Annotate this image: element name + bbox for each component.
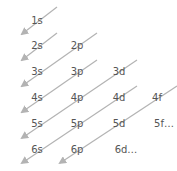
orbital-label: 3s — [31, 66, 43, 78]
orbital-label: 4f — [152, 92, 162, 104]
aufbau-diagram: 1s2s2p3s3p3d4s4p4d4f5s5p5d5f…6s6p6d… — [0, 0, 177, 171]
filling-order-arrows — [0, 0, 177, 171]
orbital-label: 6d… — [115, 144, 138, 156]
orbital-label: 6s — [31, 144, 43, 156]
orbital-label: 1s — [31, 15, 43, 27]
orbital-label: 5d — [113, 118, 126, 130]
orbital-label: 4s — [31, 92, 43, 104]
orbital-label: 2s — [31, 40, 43, 52]
orbital-label: 4d — [113, 92, 126, 104]
orbital-label: 4p — [71, 92, 84, 104]
orbital-label: 6p — [71, 144, 84, 156]
orbital-label: 5p — [71, 118, 84, 130]
orbital-label: 5f… — [154, 118, 174, 130]
orbital-label: 2p — [71, 40, 84, 52]
orbital-label: 3d — [113, 66, 126, 78]
orbital-label: 3p — [71, 66, 84, 78]
orbital-label: 5s — [31, 118, 43, 130]
